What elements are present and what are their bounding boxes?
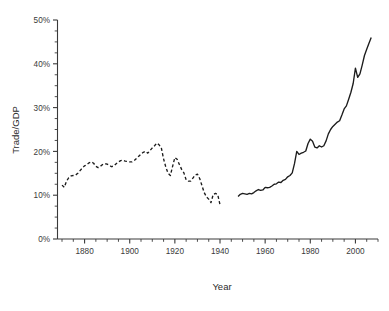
data-series-group — [62, 38, 371, 205]
y-tick-label: 30% — [34, 104, 50, 113]
y-tick-label: 0% — [38, 235, 50, 244]
x-tick-label: 1960 — [256, 247, 275, 256]
series-path-0 — [62, 143, 220, 205]
series-path-1 — [238, 38, 371, 197]
chart-figure: 0%10%20%30%40%50% 1880190019201940196019… — [0, 0, 389, 311]
x-tick-label: 1980 — [301, 247, 320, 256]
x-tick-label: 1920 — [166, 247, 185, 256]
x-tick-label: 1880 — [75, 247, 94, 256]
y-axis-title: Trade/GDP — [10, 106, 21, 154]
x-tick-label: 1940 — [211, 247, 230, 256]
y-tick-label: 10% — [34, 191, 50, 200]
y-tick-label: 50% — [34, 16, 50, 25]
y-axis-tick-labels: 0%10%20%30%40%50% — [34, 16, 50, 244]
x-axis-ticks — [62, 239, 378, 244]
x-axis-title: Year — [212, 281, 231, 292]
y-tick-label: 20% — [34, 148, 50, 157]
trade-gdp-line-chart: 0%10%20%30%40%50% 1880190019201940196019… — [0, 0, 389, 311]
x-axis-tick-labels: 1880190019201940196019802000 — [75, 247, 365, 256]
y-axis-ticks — [53, 20, 58, 239]
x-tick-label: 1900 — [121, 247, 140, 256]
x-tick-label: 2000 — [346, 247, 365, 256]
y-tick-label: 40% — [34, 60, 50, 69]
